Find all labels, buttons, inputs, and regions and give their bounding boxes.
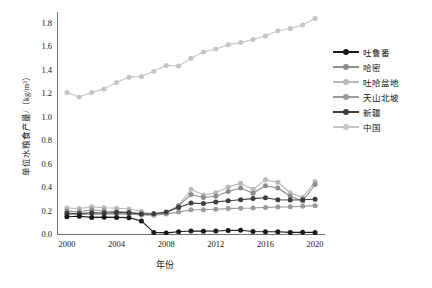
legend-label: 吐鲁番 [359,46,390,58]
data-point [102,215,107,220]
data-point [126,75,131,80]
data-point [300,230,305,235]
data-point [288,26,293,31]
data-point [64,214,69,219]
data-point [213,207,218,212]
data-point [114,80,119,85]
data-point [213,194,218,199]
data-point [275,180,280,185]
data-point [164,63,169,68]
data-point [263,195,268,200]
y-axis-tick-label: 1.2 [22,89,52,97]
data-point [201,195,206,200]
data-point [226,184,231,189]
data-point [226,198,231,203]
data-point [313,182,318,187]
legend-label: 吐哈盆地 [359,76,399,88]
data-point [189,207,194,212]
y-axis-tick-label: 0.6 [22,160,52,168]
y-axis-tick-label: 0.8 [22,136,52,144]
y-axis-tick-label: 0.0 [22,230,52,238]
legend-marker-icon [333,106,359,117]
data-point [201,201,206,206]
legend-item-1[interactable]: 哈密 [333,59,429,74]
data-point [238,181,243,186]
x-axis-tick-labels: 200020042008201220162020 [0,239,340,253]
data-point [313,197,318,202]
data-point [189,192,194,197]
y-axis-tick-label: 1.8 [22,19,52,27]
legend-marker-icon [333,61,359,72]
legend-item-3[interactable]: 天山北坡 [333,89,429,104]
x-axis-tick-label: 2000 [45,239,89,249]
data-point [139,74,144,79]
data-point [139,212,144,217]
data-point [176,229,181,234]
legend-item-4[interactable]: 新疆 [333,104,429,119]
data-point [300,204,305,209]
legend-label: 哈密 [359,61,381,73]
legend-dot [343,94,349,100]
data-point [226,189,231,194]
x-axis-tick-label: 2016 [243,239,287,249]
data-point [275,28,280,33]
data-point [189,187,194,192]
x-axis-label: 年份 [0,258,330,271]
legend-item-0[interactable]: 吐鲁番 [333,44,429,59]
data-point [313,230,318,235]
data-point [275,229,280,234]
data-point [139,218,144,223]
legend-item-5[interactable]: 中国 [333,119,429,134]
data-point [263,183,268,188]
data-point [89,210,94,215]
legend-marker-icon [333,76,359,87]
data-point [288,204,293,209]
data-point [201,49,206,54]
series-0 [64,214,317,235]
y-axis-tick-label: 0.2 [22,207,52,215]
legend-dot [343,124,349,130]
data-point [164,230,169,235]
series-5 [64,16,317,100]
data-point [300,197,305,202]
data-point [288,230,293,235]
legend-label: 新疆 [359,106,381,118]
data-point [300,22,305,27]
plot-svg [57,12,325,235]
legend-label: 天山北坡 [359,91,399,103]
data-point [213,199,218,204]
data-point [89,90,94,95]
legend-marker-icon [333,46,359,57]
data-point [251,206,256,211]
y-axis-tick-label: 1.0 [22,113,52,121]
y-axis-tick-label: 1.4 [22,66,52,74]
data-point [238,206,243,211]
x-axis-tick-label: 2020 [293,239,337,249]
data-point [176,63,181,68]
data-point [275,186,280,191]
data-point [251,191,256,196]
data-point [251,229,256,234]
data-point [189,229,194,234]
data-point [213,46,218,51]
data-point [77,214,82,219]
legend-item-2[interactable]: 吐哈盆地 [333,74,429,89]
data-point [114,210,119,215]
data-point [89,215,94,220]
chart-legend: 吐鲁番哈密吐哈盆地天山北坡新疆中国 [333,44,429,134]
data-point [176,205,181,210]
data-point [238,228,243,233]
data-point [151,211,156,216]
data-point [238,40,243,45]
data-point [201,207,206,212]
data-point [263,229,268,234]
data-point [126,210,131,215]
data-point [263,205,268,210]
data-point [226,228,231,233]
data-point [189,56,194,61]
legend-dot [343,49,349,55]
data-point [189,201,194,206]
data-point [313,203,318,208]
data-point [288,198,293,203]
data-point [164,210,169,215]
